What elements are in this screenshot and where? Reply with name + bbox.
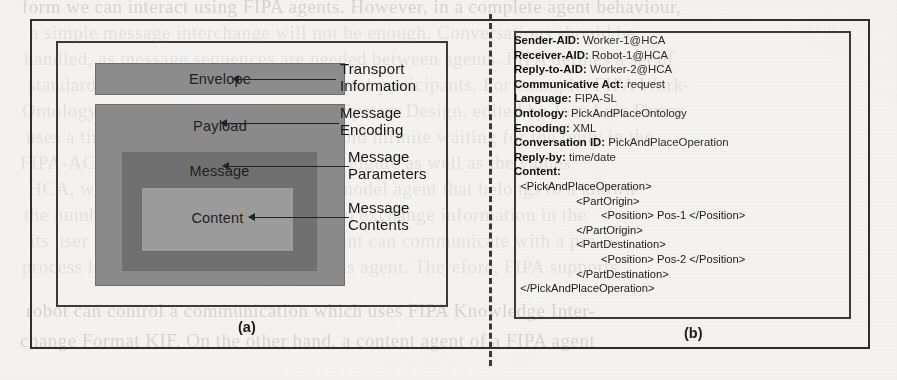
callout-line-2: Contents — [348, 216, 410, 233]
xml-line: </PartDestination> — [514, 267, 866, 282]
callout-transport-information: Transport Information — [340, 60, 416, 94]
callout-arrow-icon — [222, 162, 229, 170]
message-field-value: Worker-1@HCA — [580, 34, 665, 46]
xml-line: <PickAndPlaceOperation> — [514, 179, 866, 194]
message-field-row: Reply-by: time/date — [514, 150, 864, 165]
message-field-key: Reply-to-AID: — [514, 63, 587, 75]
message-field-row: Communicative Act: request — [514, 77, 864, 92]
message-field-value: Robot-1@HCA — [589, 49, 668, 61]
message-field-key: Conversation ID: — [514, 136, 605, 148]
callout-line-1: Message — [348, 199, 410, 216]
callout-arrow-icon — [248, 213, 255, 221]
callout-message-encoding: Message Encoding — [340, 104, 403, 138]
figure-content-layer: Envelope Payload Message Content Transpo… — [0, 0, 897, 380]
xml-line: <Position> Pos-2 </Position> — [514, 252, 866, 267]
callout-message-parameters: Message Parameters — [348, 148, 427, 182]
panel-b-caption: (b) — [684, 325, 703, 341]
callout-line-2: Information — [340, 77, 416, 94]
callout-line-1: Message — [340, 104, 403, 121]
box-content-label: Content — [142, 210, 293, 226]
fipa-message-fields: Sender-AID: Worker-1@HCA Receiver-AID: R… — [514, 33, 864, 179]
xml-line: </PickAndPlaceOperation> — [514, 281, 866, 296]
callout-arrow-icon — [232, 75, 239, 83]
message-field-row: Receiver-AID: Robot-1@HCA — [514, 48, 864, 63]
message-field-value: PickAndPlaceOntology — [568, 107, 687, 119]
message-field-key: Content: — [514, 165, 561, 177]
figure-root: form we can interact using FIPA agents. … — [0, 0, 897, 380]
callout-arrow-icon — [220, 119, 227, 127]
callout-message-contents: Message Contents — [348, 199, 410, 233]
xml-line: <PartOrigin> — [514, 194, 866, 209]
message-field-key: Encoding: — [514, 122, 570, 134]
message-field-key: Receiver-AID: — [514, 49, 589, 61]
message-field-key: Communicative Act: — [514, 78, 624, 90]
message-field-row: Content: — [514, 164, 864, 179]
panel-b: Sender-AID: Worker-1@HCA Receiver-AID: R… — [489, 19, 870, 349]
message-field-value: FIPA-SL — [572, 92, 617, 104]
callout-line-1: Transport — [340, 60, 416, 77]
callout-line-2: Encoding — [340, 121, 403, 138]
message-field-row: Reply-to-AID: Worker-2@HCA — [514, 62, 864, 77]
message-field-key: Reply-by: — [514, 151, 566, 163]
message-field-key: Sender-AID: — [514, 34, 580, 46]
callout-line-2: Parameters — [348, 165, 427, 182]
callout-leader-line — [255, 217, 349, 218]
xml-line: <PartDestination> — [514, 237, 866, 252]
callout-leader-line — [229, 166, 349, 167]
message-field-row: Sender-AID: Worker-1@HCA — [514, 33, 864, 48]
callout-leader-line — [227, 123, 339, 124]
message-field-value: XML — [570, 122, 597, 134]
panel-a: Envelope Payload Message Content Transpo… — [30, 19, 466, 349]
callout-leader-line — [239, 79, 336, 80]
message-field-key: Ontology: — [514, 107, 568, 119]
message-field-row: Language: FIPA-SL — [514, 91, 864, 106]
panel-a-caption: (a) — [238, 319, 256, 335]
message-content-xml: <PickAndPlaceOperation> <PartOrigin> <Po… — [514, 179, 866, 296]
callout-line-1: Message — [348, 148, 427, 165]
xml-line: <Position> Pos-1 </Position> — [514, 208, 866, 223]
message-field-row: Encoding: XML — [514, 121, 864, 136]
message-field-value: Worker-2@HCA — [587, 63, 672, 75]
box-content: Content — [141, 187, 294, 252]
message-field-row: Ontology: PickAndPlaceOntology — [514, 106, 864, 121]
message-field-value: PickAndPlaceOperation — [605, 136, 728, 148]
message-field-value: time/date — [566, 151, 616, 163]
message-field-row: Conversation ID: PickAndPlaceOperation — [514, 135, 864, 150]
message-field-key: Language: — [514, 92, 572, 104]
message-field-value: request — [624, 78, 665, 90]
xml-line: </PartOrigin> — [514, 223, 866, 238]
